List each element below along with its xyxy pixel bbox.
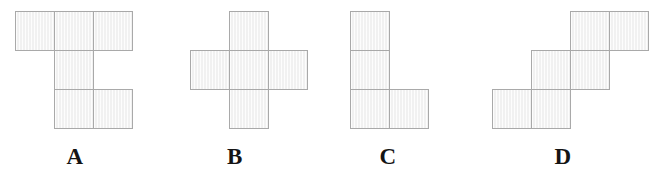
answer-choice-panel: ABCD — [0, 0, 667, 182]
shape-cell — [570, 50, 610, 90]
shape-cell — [531, 89, 571, 129]
shape-cell — [570, 11, 610, 51]
answer-choice-d[interactable]: D — [0, 0, 667, 182]
shape-cell — [531, 50, 571, 90]
shape-cell — [609, 11, 649, 51]
answer-choice-label-d: D — [551, 144, 575, 170]
shape-cell — [492, 89, 532, 129]
